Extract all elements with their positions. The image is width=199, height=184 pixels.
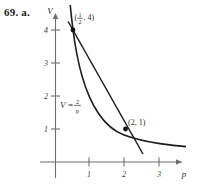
equation-numerator: 2 [76, 98, 79, 105]
point-marker-upper [71, 28, 76, 33]
upper-point-open-paren: ( [75, 13, 78, 22]
figure-container: 69. a. 1 2 3 1 2 3 4 V p [0, 0, 199, 184]
equation-label: V = 2 p [60, 98, 81, 114]
y-axis-label: V [47, 6, 54, 16]
y-tick-label-3: 3 [43, 59, 48, 68]
equation-lhs: V = [60, 100, 74, 110]
x-tick-label-2: 2 [122, 170, 126, 179]
upper-point-fraction-numerator: 1 [78, 11, 81, 18]
equation-denominator: p [76, 107, 79, 114]
x-tick-label-1: 1 [87, 170, 91, 179]
upper-point-label: ( 1 2 , 4) [75, 11, 95, 25]
x-axis-arrow-icon [176, 159, 182, 165]
lower-point-label: (2, 1) [128, 118, 146, 127]
y-axis-arrow-icon [53, 13, 59, 19]
x-axis-label: p [181, 169, 187, 179]
y-tick-label-1: 1 [44, 125, 48, 134]
y-tick-label-4: 4 [44, 26, 48, 35]
upper-point-rest: , 4) [84, 13, 95, 22]
y-tick-label-2: 2 [44, 92, 48, 101]
upper-point-fraction-denominator: 2 [78, 18, 81, 25]
coordinate-plot: 1 2 3 1 2 3 4 V p ( 1 2 , 4) (2, 1) [0, 0, 199, 184]
secant-line [68, 22, 143, 155]
x-tick-label-3: 3 [156, 170, 161, 179]
point-marker-lower [123, 127, 128, 132]
